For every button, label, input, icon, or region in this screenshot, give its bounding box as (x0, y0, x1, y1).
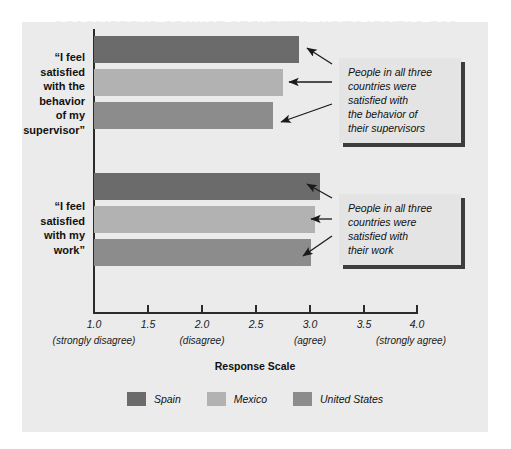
annotation-work-line-3: satisfied with (348, 229, 452, 243)
category-label-supervisor-line-1: “I feel (0, 50, 85, 65)
category-label-supervisor-line-6: supervisor” (0, 123, 85, 138)
x-axis-label-2-5: 2.5 (249, 318, 264, 330)
bar-work-spain (94, 173, 320, 200)
annotation-supervisor-line-3: satisfied with (348, 93, 452, 107)
bar-supervisor-united-states (94, 102, 273, 129)
x-axis-tick-4-0 (416, 305, 418, 314)
legend-swatch-mexico (207, 392, 226, 406)
category-label-work: “I feel satisfied with my work” (0, 199, 85, 257)
bar-work-mexico (94, 206, 315, 233)
category-label-supervisor-line-2: satisfied (0, 65, 85, 80)
bar-supervisor-mexico (94, 69, 283, 96)
arrow-supervisor-spain (307, 48, 332, 64)
x-axis-label-1-0: 1.0 (87, 318, 102, 330)
legend-item-united-states: United States (293, 392, 383, 406)
category-label-supervisor: “I feel satisfied with the behavior of m… (0, 50, 85, 137)
legend-swatch-spain (127, 392, 146, 406)
chart-legend: Spain Mexico United States (22, 392, 488, 406)
annotation-supervisor-line-2: countries were (348, 79, 452, 93)
legend-item-spain: Spain (127, 392, 181, 406)
x-axis-sublabel-strongly-agree: (strongly agree) (376, 335, 446, 346)
x-axis-label-4-0: 4.0 (410, 318, 425, 330)
x-axis-tick-3-0 (309, 305, 311, 314)
annotation-supervisor-line-5: their supervisors (348, 121, 452, 135)
x-axis-tick-3-5 (363, 305, 365, 314)
x-axis-title: Response Scale (93, 360, 417, 372)
arrow-supervisor-united-states (281, 104, 332, 122)
category-label-work-line-3: with my (0, 228, 85, 243)
x-axis-label-3-5: 3.5 (357, 318, 372, 330)
x-axis-tick-1-5 (147, 305, 149, 314)
x-axis-sublabel-strongly-disagree: (strongly disagree) (53, 335, 136, 346)
figure-container: JOB SATISFACTION: ATTITUDES TOWARD SUPER… (0, 0, 511, 449)
x-axis-tick-2-5 (255, 305, 257, 314)
annotation-callout-supervisor: People in all three countries were satis… (339, 58, 461, 143)
bar-supervisor-spain (94, 36, 299, 63)
category-label-work-line-4: work” (0, 243, 85, 258)
category-label-supervisor-line-5: of my (0, 108, 85, 123)
annotation-work-line-4: their work (348, 243, 452, 257)
x-axis-tick-2-0 (201, 305, 203, 314)
x-axis-label-3-0: 3.0 (303, 318, 318, 330)
category-label-supervisor-line-4: behavior (0, 94, 85, 109)
legend-item-mexico: Mexico (207, 392, 267, 406)
x-axis-sublabel-disagree: (disagree) (179, 335, 224, 346)
x-axis-label-2-0: 2.0 (195, 318, 210, 330)
x-axis-label-1-5: 1.5 (141, 318, 156, 330)
legend-label-united-states: United States (320, 393, 383, 405)
x-axis-tick-1-0 (93, 305, 95, 314)
x-axis-sublabel-agree: (agree) (294, 335, 326, 346)
annotation-callout-work: People in all three countries were satis… (339, 194, 461, 265)
annotation-supervisor-line-1: People in all three (348, 65, 452, 79)
legend-swatch-united-states (293, 392, 312, 406)
chart-panel: 1.0 1.5 2.0 2.5 3.0 3.5 4.0 (strongly di… (22, 22, 488, 432)
bar-work-united-states (94, 239, 311, 266)
category-label-supervisor-line-3: with the (0, 79, 85, 94)
legend-label-spain: Spain (154, 393, 181, 405)
annotation-supervisor-line-4: the behavior of (348, 107, 452, 121)
plot-area: 1.0 1.5 2.0 2.5 3.0 3.5 4.0 (strongly di… (22, 22, 488, 432)
annotation-work-line-1: People in all three (348, 201, 452, 215)
category-label-work-line-1: “I feel (0, 199, 85, 214)
legend-label-mexico: Mexico (234, 393, 267, 405)
category-label-work-line-2: satisfied (0, 214, 85, 229)
annotation-work-line-2: countries were (348, 215, 452, 229)
